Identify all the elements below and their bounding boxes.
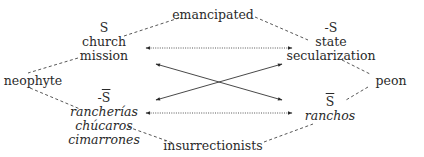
top-left-line-2: mission xyxy=(80,49,128,63)
top-right-line-2: secularization xyxy=(287,49,376,63)
symbol-not-s-bar: -S xyxy=(68,91,140,105)
bottom-left-line-1: rancherías xyxy=(68,105,140,119)
bottom-left-line-3: cimarrones xyxy=(68,133,140,147)
dash-bottom-bottomright xyxy=(264,124,313,142)
bottom-term-label: insurrectionists xyxy=(163,139,262,153)
bottom-right-node: S ranchos xyxy=(305,95,355,123)
top-left-node: S church mission xyxy=(80,21,128,63)
bottom-left-node: -S rancherías chúcaros cimarrones xyxy=(68,91,140,147)
top-left-line-1: church xyxy=(80,35,128,49)
bottom-left-line-2: chúcaros xyxy=(68,119,140,133)
symbol-s-bar: S xyxy=(305,95,355,109)
symbol-s: S xyxy=(80,21,128,35)
left-term-label: neophyte xyxy=(4,74,63,88)
semiotic-square-diagram: emancipated insurrectionists neophyte pe… xyxy=(0,0,424,157)
dash-topleft-left xyxy=(28,58,78,73)
top-right-line-1: state xyxy=(287,35,376,49)
bottom-right-line-1: ranchos xyxy=(305,109,355,123)
symbol-not-s: -S xyxy=(287,21,376,35)
right-term-label: peon xyxy=(376,74,407,88)
top-right-node: -S state secularization xyxy=(287,21,376,63)
top-term-label: emancipated xyxy=(172,8,254,22)
